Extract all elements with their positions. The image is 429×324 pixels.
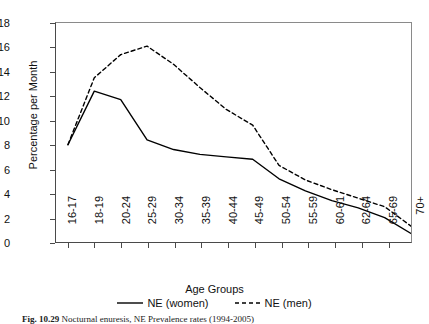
x-tick-label-55-59: 55-59 xyxy=(307,196,319,252)
x-tick-label-20-24: 20-24 xyxy=(120,196,132,252)
x-tick-label-70plus: 70+ xyxy=(414,196,426,252)
y-tick-label: 2 xyxy=(0,214,10,224)
y-tick-mark xyxy=(50,243,55,244)
figure-caption: Fig. 10.29 Nocturnal enuresis, NE Preval… xyxy=(22,314,422,324)
y-tick-label: 14 xyxy=(0,67,10,77)
figure-caption-text: Nocturnal enuresis, NE Prevalence rates … xyxy=(62,314,254,324)
y-tick-label: 0 xyxy=(0,238,10,248)
x-tick-label-62-64: 62-64 xyxy=(360,196,372,252)
x-tick-label-30-34: 30-34 xyxy=(173,196,185,252)
x-tick-label-65-69: 65-69 xyxy=(387,196,399,252)
figure-caption-label: Fig. 10.29 xyxy=(22,314,59,324)
x-tick-label-40-44: 40-44 xyxy=(227,196,239,252)
legend-label-ne-women: NE (women) xyxy=(147,297,208,309)
y-tick-label: 16 xyxy=(0,42,10,52)
x-tick-label-45-49: 45-49 xyxy=(253,196,265,252)
x-tick-label-25-29: 25-29 xyxy=(146,196,158,252)
figure-container: Percentage per Month 18 16 14 12 10 8 6 … xyxy=(0,0,429,324)
y-tick-label: 12 xyxy=(0,91,10,101)
solid-line-icon xyxy=(117,299,143,307)
dashed-line-icon xyxy=(235,299,261,307)
legend-label-ne-men: NE (men) xyxy=(265,297,312,309)
y-tick-label: 10 xyxy=(0,116,10,126)
y-axis-title: Percentage per Month xyxy=(27,20,41,210)
x-tick-label-35-39: 35-39 xyxy=(200,196,212,252)
chart-legend: NE (women) NE (men) xyxy=(0,297,429,309)
y-tick-label: 18 xyxy=(0,18,10,28)
legend-item-ne-women[interactable]: NE (women) xyxy=(117,297,208,309)
y-tick-label: 6 xyxy=(0,165,10,175)
x-axis-title: Age Groups xyxy=(0,283,429,295)
x-tick-label-18-19: 18-19 xyxy=(93,196,105,252)
y-tick-label: 4 xyxy=(0,189,10,199)
y-tick-label: 8 xyxy=(0,140,10,150)
x-tick-label-60-61: 60-61 xyxy=(334,196,346,252)
x-tick-label-50-54: 50-54 xyxy=(280,196,292,252)
x-tick-label-16-17: 16-17 xyxy=(66,196,78,252)
legend-item-ne-men[interactable]: NE (men) xyxy=(235,297,312,309)
